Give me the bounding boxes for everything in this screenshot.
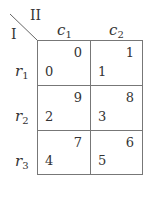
- cell-r2-c1: 9 2: [38, 86, 91, 131]
- column-player-label: II: [30, 7, 41, 23]
- row-header-r1: r1: [15, 62, 29, 81]
- payoff-player-i: 0: [45, 64, 53, 79]
- column-header-c2: c2: [109, 21, 124, 40]
- column-header-c1: c1: [57, 21, 72, 40]
- row-header-r2: r2: [15, 107, 29, 126]
- payoff-player-ii: 7: [74, 135, 82, 150]
- payoff-player-ii: 8: [126, 90, 134, 105]
- payoff-player-i: 1: [98, 64, 106, 79]
- cell-r3-c1: 7 4: [38, 131, 91, 174]
- payoff-matrix: 0 0 1 1 9 2 8 3 7 4 6 5: [37, 40, 143, 175]
- cell-r2-c2: 8 3: [91, 86, 142, 131]
- row-player-label: I: [11, 26, 17, 42]
- cell-r1-c2: 1 1: [91, 41, 142, 86]
- row-header-r3: r3: [15, 152, 29, 171]
- payoff-player-ii: 9: [74, 90, 82, 105]
- payoff-player-ii: 1: [126, 45, 134, 60]
- payoff-player-i: 5: [98, 153, 106, 168]
- payoff-player-i: 3: [98, 109, 106, 124]
- payoff-player-ii: 6: [126, 135, 134, 150]
- cell-r1-c1: 0 0: [38, 41, 91, 86]
- payoff-player-ii: 0: [74, 45, 82, 60]
- payoff-player-i: 2: [45, 109, 53, 124]
- cell-r3-c2: 6 5: [91, 131, 142, 174]
- payoff-player-i: 4: [45, 153, 53, 168]
